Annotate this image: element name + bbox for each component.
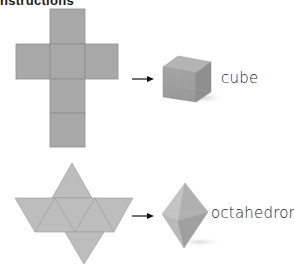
octahedron-net <box>15 163 153 264</box>
octahedron-label: octahedron <box>211 204 294 222</box>
figure-canvas <box>0 0 294 264</box>
cube-solid <box>163 56 227 104</box>
net-square <box>50 9 85 44</box>
net-square <box>50 44 85 79</box>
net-square <box>50 113 85 147</box>
cube-net <box>16 9 118 147</box>
net-square <box>85 44 118 79</box>
net-square <box>16 44 50 79</box>
right-arrow-icon <box>132 76 154 82</box>
cube-label: cube <box>221 69 258 87</box>
net-square <box>50 79 85 113</box>
